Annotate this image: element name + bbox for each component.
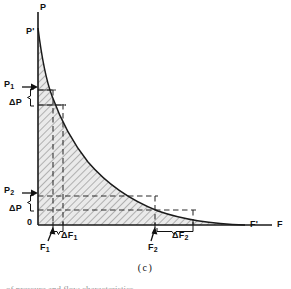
- p2-label: P2: [4, 186, 14, 196]
- p-prime-label: P': [26, 27, 35, 36]
- f1-label-subscript: 1: [46, 246, 50, 253]
- figure-container: P P' F F' 0 P1 ΔP P2 ΔP F1 ΔF1 F2 ΔF2 (c…: [0, 0, 291, 289]
- p2-label-subscript: 2: [10, 189, 14, 196]
- delta-p-lower-label: ΔP: [9, 204, 22, 213]
- f-axis-label: F: [277, 220, 283, 229]
- delta-f1-label-text: ΔF: [61, 230, 73, 240]
- delta-f2-label: ΔF2: [172, 231, 188, 241]
- p-axis-label: P: [40, 3, 46, 12]
- hatched-area: [38, 28, 245, 225]
- delta-f2-label-subscript: 2: [184, 234, 188, 241]
- f2-pointer-arrow: [151, 227, 157, 242]
- delta-f1-label-subscript: 1: [73, 234, 77, 241]
- figure-caption: (c): [0, 262, 291, 273]
- p1-label-subscript: 1: [10, 83, 14, 90]
- delta-f2-label-text: ΔF: [172, 230, 184, 240]
- f2-label-subscript: 2: [154, 246, 158, 253]
- delta-p-upper-brace: [28, 89, 35, 106]
- p1-label: P1: [4, 80, 14, 90]
- f1-pointer-arrow: [48, 227, 55, 242]
- delta-p-upper-label: ΔP: [9, 98, 22, 107]
- delta-f1-label: ΔF1: [61, 231, 77, 241]
- delta-p-lower-brace: [28, 195, 35, 211]
- f1-label: F1: [40, 243, 50, 253]
- f-prime-label: F': [250, 220, 258, 229]
- page-body-text-sliver: of pressure and flow characteristics: [6, 285, 285, 289]
- origin-label: 0: [27, 218, 32, 227]
- f2-label: F2: [148, 243, 158, 253]
